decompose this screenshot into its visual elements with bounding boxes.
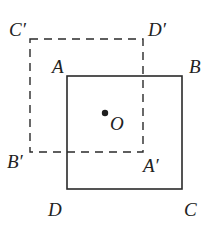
rotation-diagram: O A B C D C′ D′ B′ A′	[0, 0, 218, 227]
label-a: A	[50, 56, 64, 77]
center-point-o	[102, 110, 108, 116]
solid-square-abcd	[67, 76, 182, 189]
label-b-prime: B′	[7, 151, 24, 172]
label-c-prime: C′	[9, 19, 27, 40]
label-d-prime: D′	[147, 19, 167, 40]
dashed-square-a-prime-b-prime-c-prime-d-prime	[30, 39, 143, 152]
label-c: C	[184, 199, 197, 220]
label-b: B	[189, 56, 201, 77]
label-o: O	[110, 113, 124, 134]
label-a-prime: A′	[141, 155, 160, 176]
label-d: D	[47, 199, 62, 220]
